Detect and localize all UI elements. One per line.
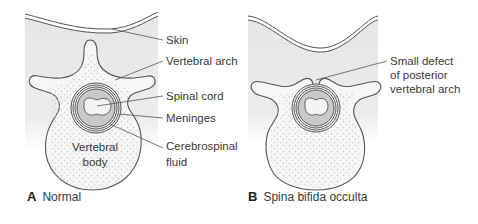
label-csf-line2: fluid xyxy=(166,155,187,169)
label-meninges: Meninges xyxy=(166,111,216,125)
caption-b: BSpina bifida occulta xyxy=(248,189,367,204)
caption-a-text: Normal xyxy=(42,190,81,204)
label-spinal-cord: Spinal cord xyxy=(166,89,224,103)
caption-b-letter: B xyxy=(248,189,257,204)
caption-a-letter: A xyxy=(27,189,36,204)
label-csf-line1: Cerebrospinal xyxy=(166,139,238,153)
label-skin: Skin xyxy=(166,33,188,47)
label-defect-line3: vertebral arch xyxy=(390,82,460,96)
label-vertebral-arch: Vertebral arch xyxy=(166,54,238,68)
label-body-line2: body xyxy=(60,155,130,170)
spinal-cord xyxy=(84,98,111,115)
caption-a: ANormal xyxy=(27,189,81,204)
panel-b-illustration xyxy=(248,16,387,190)
label-defect-line1: Small defect xyxy=(390,54,453,68)
spinal-cord-b xyxy=(305,98,328,115)
label-vertebral-body: Vertebral body xyxy=(60,140,130,170)
caption-b-text: Spina bifida occulta xyxy=(263,190,367,204)
label-body-line1: Vertebral xyxy=(60,140,130,155)
label-defect-line2: of posterior xyxy=(390,68,448,82)
